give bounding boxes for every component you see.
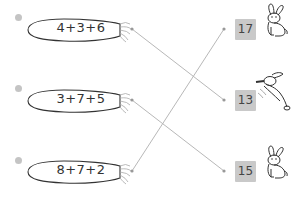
right-dot-1[interactable] xyxy=(222,27,225,30)
leaping-bunny-icon xyxy=(250,71,296,111)
problem-number-2 xyxy=(15,85,22,92)
expression-2: 3+7+5 xyxy=(46,91,116,106)
carrot-problem-2[interactable]: 3+7+5 xyxy=(24,87,134,115)
problem-number-1 xyxy=(15,14,22,21)
carrot-problem-1[interactable]: 4+3+6 xyxy=(24,16,134,44)
right-dot-3[interactable] xyxy=(222,169,225,172)
right-dot-2[interactable] xyxy=(222,98,225,101)
sitting-bunny-icon xyxy=(262,145,292,179)
problem-number-3 xyxy=(15,157,22,164)
answer-box-17[interactable]: 17 xyxy=(235,19,256,40)
line-problem3-to-17[interactable] xyxy=(132,29,224,171)
line-problem2-to-15[interactable] xyxy=(132,100,224,171)
line-problem1-to-13[interactable] xyxy=(132,29,224,100)
answer-box-15[interactable]: 15 xyxy=(235,161,256,182)
matching-exercise: 4+3+6 3+7+5 8+7+2 17 13 15 xyxy=(0,0,304,205)
carrot-problem-3[interactable]: 8+7+2 xyxy=(24,158,134,186)
expression-3: 8+7+2 xyxy=(46,162,116,177)
sitting-bunny-icon xyxy=(262,3,292,37)
expression-1: 4+3+6 xyxy=(46,20,116,35)
